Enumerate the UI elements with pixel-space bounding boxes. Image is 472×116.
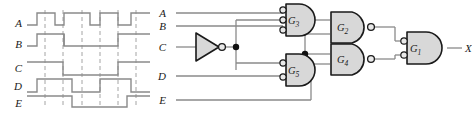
circuit-input-label-D: D xyxy=(157,70,166,82)
gate-G3-input-bubble-3 xyxy=(280,27,286,33)
inverter-C-bubble xyxy=(219,44,226,51)
gate-G1[interactable]: G1 xyxy=(401,32,442,64)
gate-G1-input-bubble-1 xyxy=(401,38,407,44)
gate-G3-input-bubble-1 xyxy=(280,7,286,13)
gate-G5-input-bubble-2 xyxy=(280,74,286,80)
gate-G3[interactable]: G3 xyxy=(280,4,315,36)
figure-container: A B C D E xyxy=(0,0,472,116)
circuit-input-label-B: B xyxy=(159,20,166,32)
circuit-input-label-C: C xyxy=(159,41,167,53)
junction-c-inverted xyxy=(233,44,239,50)
gate-G1-input-bubble-2 xyxy=(401,52,407,58)
gate-G5[interactable]: G5 xyxy=(280,54,315,86)
gate-G3-input-bubble-2 xyxy=(280,17,286,23)
gate-G4[interactable]: G4 xyxy=(331,44,374,75)
circuit-diagram-panel: G3 G5 G2 G4 xyxy=(0,0,472,116)
circuit-input-label-E: E xyxy=(158,94,166,106)
circuit-output-label-X: X xyxy=(464,42,472,54)
gate-G2[interactable]: G2 xyxy=(331,12,374,43)
gate-G5-input-bubble-1 xyxy=(280,60,286,66)
inverter-C[interactable] xyxy=(196,33,225,61)
circuit-input-label-A: A xyxy=(158,7,166,19)
gate-G4-output-bubble xyxy=(368,56,375,63)
gate-G2-output-bubble xyxy=(368,24,375,31)
